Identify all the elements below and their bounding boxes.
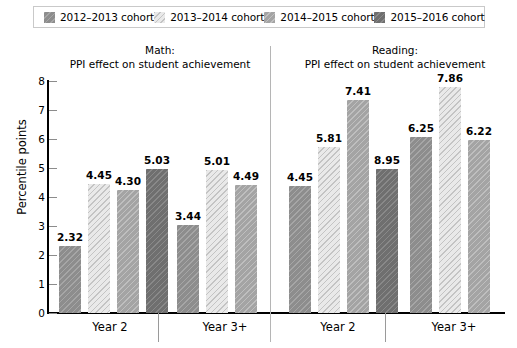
y-tick: 0 — [22, 308, 45, 318]
x-axis-group-label: Year 3+ — [404, 320, 504, 334]
bar — [468, 140, 490, 313]
y-tick-mark — [49, 110, 57, 111]
bar-value-label: 4.49 — [226, 171, 266, 182]
x-axis-group-label: Year 2 — [60, 320, 160, 334]
y-tick-mark — [49, 168, 57, 169]
bar — [289, 186, 311, 313]
y-tick-mark — [49, 313, 57, 314]
bar-value-label: 6.22 — [459, 126, 499, 137]
y-axis-label: Percentile points — [15, 67, 29, 267]
y-tick-mark — [49, 226, 57, 227]
y-tick-label: 1 — [25, 279, 45, 289]
bar — [146, 169, 168, 313]
y-tick-mark — [49, 197, 57, 198]
y-tick-mark — [49, 139, 57, 140]
bar — [347, 100, 369, 313]
bar — [439, 87, 461, 313]
bar-value-label: 4.45 — [280, 172, 320, 183]
bar — [410, 137, 432, 313]
x-axis-group-label: Year 2 — [288, 320, 388, 334]
bar-value-label: 4.30 — [108, 176, 148, 187]
y-tick-mark — [49, 81, 57, 82]
plot-area: 012345678 Percentile points 2.324.454.30… — [0, 0, 517, 348]
bar — [177, 225, 199, 313]
bar-value-label: 5.03 — [137, 155, 177, 166]
bar — [88, 184, 110, 313]
bar — [59, 246, 81, 313]
bar-value-label: 2.32 — [50, 232, 90, 243]
bar-value-label: 3.44 — [168, 211, 208, 222]
y-tick-label: 0 — [25, 308, 45, 318]
bar-value-label: 7.86 — [430, 73, 470, 84]
y-tick: 1 — [22, 279, 45, 289]
bar — [318, 147, 340, 313]
bar-value-label: 5.81 — [309, 133, 349, 144]
bar — [376, 169, 398, 313]
bar-value-label: 6.25 — [401, 123, 441, 134]
bar — [235, 185, 257, 313]
bar-value-label: 8.95 — [367, 155, 407, 166]
bar-value-label: 7.41 — [338, 86, 378, 97]
panel-divider — [270, 46, 271, 342]
x-axis-line — [47, 312, 505, 314]
bar — [117, 190, 139, 313]
x-axis-group-label: Year 3+ — [175, 320, 275, 334]
bar-value-label: 5.01 — [197, 156, 237, 167]
bar — [206, 170, 228, 313]
y-tick-mark — [49, 255, 57, 256]
y-tick-mark — [49, 284, 57, 285]
